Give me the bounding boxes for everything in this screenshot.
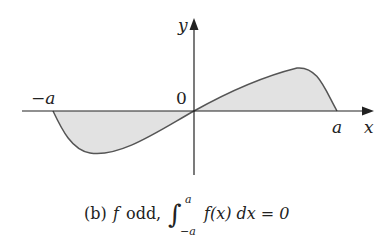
origin-label: 0 [176, 88, 187, 108]
x-axis-label: x [364, 117, 374, 137]
caption-text: odd, [126, 204, 161, 223]
caption: (b) f odd, ∫ a −a f(x) dx = 0 [84, 193, 290, 237]
shaded-area-negative [53, 111, 194, 154]
integrand: f(x) dx = 0 [203, 204, 290, 223]
odd-function-figure: y x 0 −a a (b) f odd, ∫ a −a f(x) dx = 0 [0, 0, 392, 237]
pos-a-label: a [332, 117, 342, 137]
y-axis-arrow-icon [190, 18, 199, 30]
integral-upper-limit: a [185, 193, 192, 206]
integral-lower-limit: −a [180, 225, 196, 237]
caption-func: f [112, 204, 122, 223]
neg-a-label: −a [31, 88, 55, 108]
caption-part: (b) [84, 204, 107, 223]
y-axis-label: y [177, 15, 188, 35]
x-axis-arrow-icon [362, 107, 374, 116]
